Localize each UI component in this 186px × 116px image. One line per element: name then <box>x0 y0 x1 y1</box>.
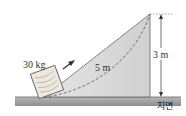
incline-diagram: 3 m 5 m 30 kg 지면 <box>0 0 186 116</box>
incline-length-label: 5 m <box>95 62 111 73</box>
ground-label: 지면 <box>157 101 173 111</box>
direction-arrow-icon <box>63 60 75 69</box>
height-label: 3 m <box>153 49 169 60</box>
mass-label: 30 kg <box>23 59 46 70</box>
